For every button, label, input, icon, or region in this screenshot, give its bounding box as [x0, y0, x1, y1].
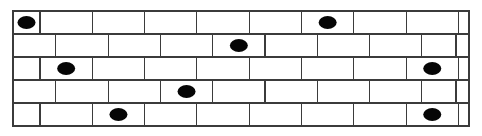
brick-r4-c9 — [422, 80, 456, 103]
brick-r1-c3 — [92, 11, 144, 34]
brick-r3-c6 — [249, 57, 301, 80]
brick-r4-c3 — [108, 80, 160, 103]
brick-r3-c5 — [197, 57, 249, 80]
marker-dot-r3-c2 — [57, 62, 75, 75]
brick-r4-c5 — [213, 80, 265, 103]
brick-r2-c8 — [370, 34, 422, 57]
brick-r4-c7 — [317, 80, 369, 103]
brick-r3-c3 — [92, 57, 144, 80]
brick-r3-c7 — [302, 57, 354, 80]
brick-r2-c3 — [108, 34, 160, 57]
brick-r2-c1 — [13, 34, 56, 57]
brick-r1-c4 — [145, 11, 197, 34]
brick-r3-c4 — [145, 57, 197, 80]
bricks-layer — [13, 11, 469, 126]
brick-wall-figure — [0, 0, 482, 136]
brick-r2-c9 — [422, 34, 456, 57]
marker-dot-r4-c4 — [178, 85, 196, 98]
brick-r5-c5 — [197, 103, 249, 126]
brick-r5-c4 — [145, 103, 197, 126]
brick-r5-c10 — [458, 103, 469, 126]
marker-dot-r3-c9 — [423, 62, 441, 75]
marker-dot-r1-c7 — [319, 16, 337, 29]
brick-r4-c8 — [370, 80, 422, 103]
brick-r3-c8 — [354, 57, 406, 80]
brick-r2-c7 — [317, 34, 369, 57]
brick-r1-c6 — [249, 11, 301, 34]
brick-r4-c1 — [13, 80, 56, 103]
brick-r5-c7 — [302, 103, 354, 126]
marker-dot-r1-c1 — [18, 16, 36, 29]
brick-r1-c9 — [406, 11, 458, 34]
brick-r1-c8 — [354, 11, 406, 34]
brick-r5-c2 — [40, 103, 92, 126]
brick-r4-c6 — [265, 80, 317, 103]
brick-wall-svg — [0, 0, 482, 136]
brick-r1-c10 — [458, 11, 469, 34]
brick-r1-c2 — [40, 11, 92, 34]
brick-r3-c10 — [458, 57, 469, 80]
marker-dot-r5-c9 — [423, 108, 441, 121]
brick-r1-c5 — [197, 11, 249, 34]
brick-r4-c10 — [456, 80, 469, 103]
brick-r2-c6 — [265, 34, 317, 57]
brick-r3-c1 — [13, 57, 40, 80]
brick-r2-c4 — [160, 34, 212, 57]
brick-r2-c10 — [456, 34, 469, 57]
brick-r4-c2 — [56, 80, 108, 103]
brick-r5-c8 — [354, 103, 406, 126]
brick-r5-c6 — [249, 103, 301, 126]
marker-dot-r2-c5 — [230, 39, 248, 52]
brick-r2-c2 — [56, 34, 108, 57]
marker-dot-r5-c3 — [109, 108, 127, 121]
brick-r5-c1 — [13, 103, 40, 126]
